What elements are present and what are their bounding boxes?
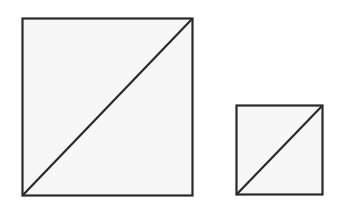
diagram-canvas: [0, 0, 341, 211]
small-square: [237, 106, 323, 195]
large-square: [23, 19, 193, 196]
